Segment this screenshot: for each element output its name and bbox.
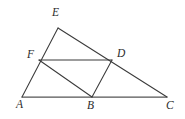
vertex-label-c: C (166, 100, 174, 112)
segment-AE (22, 28, 58, 97)
segment-EC (58, 28, 167, 97)
geometry-figure: EFDABC (0, 0, 185, 119)
vertex-label-e: E (52, 7, 59, 19)
vertex-label-a: A (16, 99, 23, 111)
vertex-label-b: B (87, 100, 94, 112)
vertex-label-d: D (117, 48, 125, 60)
segments-group (22, 28, 167, 97)
segment-DB (92, 60, 112, 97)
vertex-label-f: F (27, 49, 34, 61)
segment-FB (39, 60, 92, 97)
